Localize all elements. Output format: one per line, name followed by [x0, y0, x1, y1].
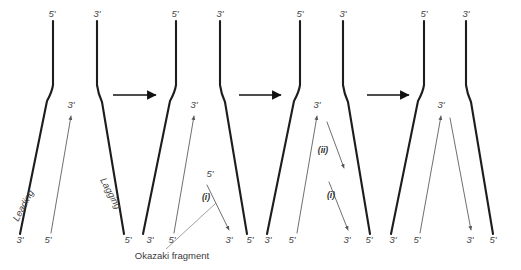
- parental-strand-lagging-template: [343, 21, 370, 234]
- panel2-bottom-label-0: 5': [124, 234, 132, 245]
- panel3-top-label-1: 3': [339, 8, 347, 19]
- parental-strand-leading-template: [267, 21, 300, 234]
- parental-strand-leading-template: [143, 21, 176, 234]
- panel1-top-label-0: 5': [48, 8, 56, 19]
- panel4-bottom-label-1: 5': [413, 234, 421, 245]
- panel4-bottom-label-2: 3': [466, 234, 474, 245]
- okazaki-fragment-ii: [327, 122, 344, 168]
- panel3-inner-label-0: 3': [313, 99, 321, 110]
- panel3-bottom-label-0: 3': [264, 234, 272, 245]
- panel4-bottom-label-0: 3': [389, 234, 397, 245]
- okazaki-fragment-i: [207, 185, 229, 230]
- panel1-bottom-label-0: 3': [16, 234, 24, 245]
- panel2-inner-label-0: 3': [190, 99, 198, 110]
- panel3-roman-ii: (ii): [318, 145, 329, 155]
- dna-replication-diagram: 5' 3' 3' 3' 5' Leading Lagging 5' 3' 3' …: [0, 0, 521, 270]
- panel4-inner-label-0: 3': [437, 99, 445, 110]
- panel2-bottom-label-4: 5': [246, 234, 254, 245]
- panel3-bottom-label-2: 3': [343, 234, 351, 245]
- panel-1-fork-initiation: 5' 3' 3' 3' 5' Leading Lagging: [10, 8, 124, 245]
- lagging-strand-label: Lagging: [98, 176, 124, 212]
- lagging-strand-joined: [450, 118, 471, 230]
- panel2-top-label-0: 5': [171, 8, 179, 19]
- panel1-top-label-1: 3': [93, 8, 101, 19]
- panel2-bottom-label-3: 3': [225, 234, 233, 245]
- leading-strand-new: [51, 116, 71, 233]
- panel3-roman-i: (i): [327, 190, 335, 200]
- panel2-bottom-label-2: 5': [168, 234, 176, 245]
- figure-canvas: 5' 3' 3' 3' 5' Leading Lagging 5' 3' 3' …: [0, 0, 521, 270]
- panel4-top-label-1: 3': [462, 8, 470, 19]
- leading-strand-new: [420, 116, 441, 233]
- panel-4-fragments-joined: 5' 3' 3' 3' 5' 3' 5': [389, 8, 497, 245]
- parental-strand-lagging-template: [220, 21, 247, 234]
- panel2-top-label-1: 3': [216, 8, 224, 19]
- panel3-bottom-label-3: 5': [365, 234, 373, 245]
- leading-strand-new: [174, 116, 194, 233]
- panel3-bottom-label-1: 5': [288, 234, 296, 245]
- leading-strand-new: [297, 116, 317, 233]
- okazaki-fragment-caption: Okazaki fragment: [135, 250, 210, 261]
- panel2-bottom-label-1: 3': [146, 234, 154, 245]
- panel-3-second-okazaki-fragment: 5' 3' 3' (ii) (i) 3' 5' 3' 5': [264, 8, 373, 245]
- panel-2-first-okazaki-fragment: 5' 3' 3' 5' (i) 5' 3' 5' 3' 5' Okazaki f…: [124, 8, 254, 261]
- panel1-bottom-label-1: 5': [44, 234, 52, 245]
- panel4-top-label-0: 5': [420, 8, 428, 19]
- panel2-roman-i: (i): [202, 192, 210, 202]
- panel1-inner-label-0: 3': [67, 99, 75, 110]
- parental-strand-lagging-template: [466, 21, 493, 234]
- panel4-bottom-label-3: 5': [489, 234, 497, 245]
- panel3-top-label-0: 5': [296, 8, 304, 19]
- panel2-inner-label-1: 5': [206, 168, 214, 179]
- parental-strand-leading-template: [391, 21, 424, 234]
